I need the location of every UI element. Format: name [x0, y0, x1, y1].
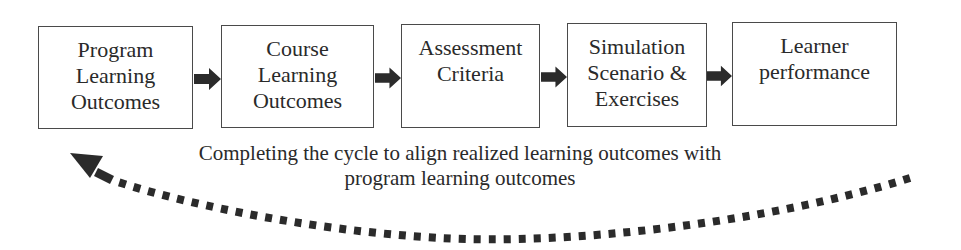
dotted-return-arrow-icon — [0, 0, 961, 250]
